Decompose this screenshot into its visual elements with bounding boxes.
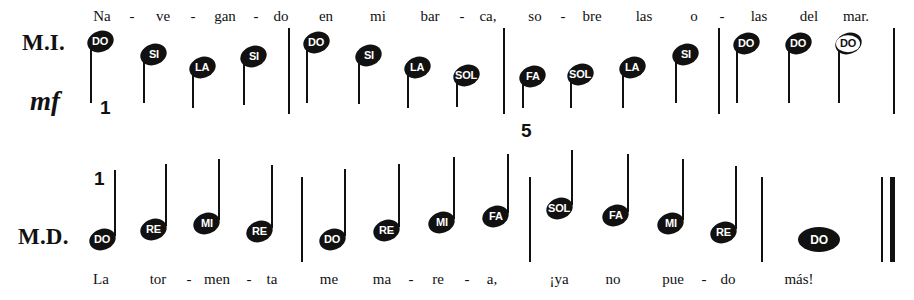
lyric-syllable: gan <box>214 8 236 25</box>
lyric-syllable: me <box>320 271 338 288</box>
note-stem <box>271 165 273 228</box>
notehead-label: MI <box>665 218 677 229</box>
measure-number: 1 <box>94 168 105 190</box>
notehead-label: RE <box>716 227 731 238</box>
barline <box>890 177 895 262</box>
lyric-hyphen: - <box>720 8 725 25</box>
lyric-syllable: bar <box>420 8 439 25</box>
notehead-label: FA <box>609 210 623 221</box>
barline <box>718 28 720 114</box>
notehead-label: DO <box>324 234 340 245</box>
notehead-label: DO <box>94 234 110 245</box>
lyric-syllable: re <box>432 271 444 288</box>
lyric-syllable: bre <box>582 8 601 25</box>
lyric-syllable: las <box>751 8 768 25</box>
notehead-label: MI <box>201 218 213 229</box>
hand-label-lower: M.D. <box>18 224 69 250</box>
notehead-label: DO <box>790 38 806 49</box>
lyric-hyphen: - <box>702 271 707 288</box>
notehead-label: SI <box>681 49 691 60</box>
barline <box>301 177 303 262</box>
lyric-hyphen: - <box>191 8 196 25</box>
lyric-syllable: ma <box>373 271 391 288</box>
lyric-syllable: ca, <box>479 8 496 25</box>
notehead-label: RE <box>252 226 267 237</box>
notehead-label: LA <box>625 62 639 73</box>
notehead-label: DO <box>92 36 108 47</box>
lyric-syllable: do <box>274 8 289 25</box>
lyric-syllable: Na <box>93 8 111 25</box>
note-stem <box>507 154 509 213</box>
lyric-syllable: o <box>690 8 698 25</box>
note-stem <box>398 164 400 227</box>
note-stem <box>218 159 220 220</box>
notehead-label: FA <box>526 71 540 82</box>
lyric-hyphen: - <box>561 8 566 25</box>
barline <box>529 177 531 262</box>
notehead-label: SI <box>149 49 159 60</box>
lyric-syllable: mi <box>370 8 386 25</box>
notehead-label: FA <box>489 211 503 222</box>
note-stem <box>735 166 737 229</box>
lyric-syllable: La <box>93 271 109 288</box>
notehead-label: RE <box>379 225 394 236</box>
lyric-syllable: ta <box>267 271 278 288</box>
lyric-syllable: pue <box>662 271 684 288</box>
measure-number: 1 <box>100 97 111 119</box>
notehead-label: SOL <box>548 203 570 214</box>
lyric-syllable: no <box>606 271 621 288</box>
note-stem <box>344 169 346 236</box>
notehead-label: MI <box>436 217 448 228</box>
music-sheet: M.I.mf15DOSILASIDOSILASOLFASOLLASIDODODO… <box>0 0 914 300</box>
note-stem <box>453 157 455 219</box>
lyric-syllable: tor <box>150 271 167 288</box>
notehead-label: DO <box>308 37 324 48</box>
note-stem <box>682 159 684 220</box>
lyric-hyphen: - <box>187 271 192 288</box>
lyric-hyphen: - <box>247 271 252 288</box>
barline <box>288 28 290 114</box>
lyric-hyphen: - <box>254 8 259 25</box>
lyric-syllable: do <box>721 271 736 288</box>
notehead-label: DO <box>810 234 828 246</box>
notehead[interactable]: DO <box>798 227 840 252</box>
lyric-syllable: so <box>528 8 541 25</box>
lyric-syllable: men <box>204 271 230 288</box>
notehead-label: SOL <box>569 69 591 80</box>
notehead-label: LA <box>195 62 209 73</box>
notehead-label: SI <box>364 50 374 61</box>
dynamic-marking-upper: mf <box>30 86 60 117</box>
barline <box>503 28 505 114</box>
lyric-syllable: mar. <box>843 8 869 25</box>
barline <box>893 28 895 114</box>
note-stem <box>571 150 573 205</box>
notehead-label: LA <box>410 62 424 73</box>
lyric-hyphen: - <box>130 8 135 25</box>
lyric-hyphen: - <box>465 271 470 288</box>
lyric-syllable: en <box>319 8 333 25</box>
lyric-hyphen: - <box>460 8 465 25</box>
barline <box>881 177 883 262</box>
hand-label-upper: M.I. <box>22 30 65 56</box>
notehead-label: DO <box>738 38 754 49</box>
lyric-syllable: más! <box>784 271 813 288</box>
lyric-syllable: del <box>800 8 818 25</box>
lyric-syllable: ¡ya <box>549 271 568 288</box>
lyric-syllable: las <box>636 8 653 25</box>
measure-number: 5 <box>521 120 532 142</box>
note-stem <box>114 170 116 236</box>
notehead-label: RE <box>146 224 161 235</box>
barline <box>761 177 763 262</box>
lyric-syllable: a, <box>487 271 497 288</box>
lyric-syllable: ve <box>156 8 170 25</box>
note-stem <box>165 164 167 226</box>
note-stem <box>627 154 629 212</box>
notehead-label: SI <box>249 51 259 62</box>
lyric-hyphen: - <box>409 271 414 288</box>
notehead-label: SOL <box>455 70 477 81</box>
notehead-label: DO <box>836 35 860 52</box>
